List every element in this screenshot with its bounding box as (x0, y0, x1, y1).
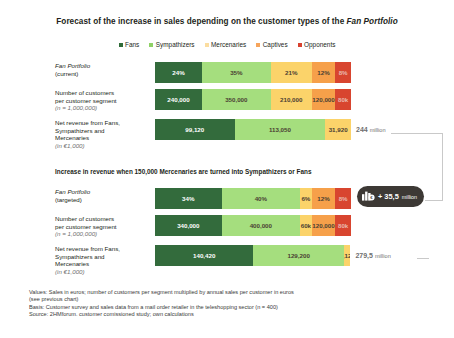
bar-segment-captives: 12% (312, 62, 336, 83)
bar-segment-fans: 140,420 (155, 245, 253, 266)
bar-segment-mercenaries: 210,000 (271, 89, 312, 110)
row-label: Fan Portfolio(targeted) (55, 188, 150, 203)
legend-swatch-icon (205, 43, 209, 47)
connector-line-horizontal-bottom (425, 200, 443, 201)
panel-current: Fan Portfolio(current)24%35%21%12%8%Numb… (0, 62, 454, 144)
bar-segment-captives: 120,000 (312, 215, 336, 236)
bar-segment-mercenaries: 21% (271, 62, 312, 83)
row-total-value: 244 (356, 126, 368, 133)
row-total: 279,5 million (355, 252, 390, 259)
legend-swatch-icon (298, 43, 302, 47)
legend-label: Fans (125, 42, 139, 48)
row-label: Number of customersper customer segment(… (55, 215, 150, 238)
bar-segment-mercenaries: 6% (300, 188, 312, 209)
footnote-line: (see previous chart) (29, 296, 429, 303)
stacked-bar: 240,000350,000210,000120,00080k (155, 89, 351, 110)
stacked-bar: 140,420129,2009,120 (155, 245, 350, 266)
page-title-emphasis: Fan Portfolio (347, 17, 398, 26)
legend-label: Captives (263, 42, 288, 48)
chart-page: Forecast of the increase in sales depend… (0, 0, 454, 338)
row-total-unit: million (370, 127, 386, 133)
bar-segment-fans: 24% (155, 62, 202, 83)
legend-item-fans: Fans (119, 42, 140, 48)
bar-segment-sympathizers: 35% (202, 62, 271, 83)
legend-label: Sympathizers (156, 42, 195, 48)
bar-segment-opponents: 80k (335, 89, 351, 110)
footnote-line: Basis: Customer survey and sales data fr… (29, 304, 429, 311)
legend-item-captives: Captives (256, 42, 287, 48)
row-total: 244 million (356, 126, 386, 133)
legend-swatch-icon (256, 43, 260, 47)
footnote-line: Source: 2HMforum. customer comissioned s… (29, 311, 429, 318)
bar-segment-opponents: 8% (335, 62, 351, 83)
bar-segment-sympathizers: 113,050 (235, 119, 326, 140)
connector-line-horizontal-top (391, 133, 443, 134)
legend-item-mercenaries: Mercenaries (205, 42, 247, 48)
badge-unit: million (402, 194, 417, 200)
bar-segment-captives: 120,000 (312, 89, 336, 110)
connector-line-vertical (442, 133, 443, 201)
stacked-bar: 340,000400,00060k120,00080k (155, 215, 351, 236)
row-total-unit: million (375, 253, 391, 259)
legend-swatch-icon (119, 43, 123, 47)
chart-row: Fan Portfolio(current)24%35%21%12%8% (0, 62, 454, 84)
footnote-line: Values: Sales in euros; number of custom… (29, 289, 429, 296)
chart-row: Number of customersper customer segment(… (0, 215, 454, 237)
row-label: Number of customersper customer segment(… (55, 89, 150, 112)
page-title-text: Forecast of the increase in sales depend… (56, 17, 346, 26)
badge-value: + 35,5 (378, 192, 399, 201)
row-total-value: 279,5 (355, 252, 373, 259)
chart-legend: FansSympathizersMercenariesCaptivesOppon… (0, 42, 454, 48)
legend-item-sympathizers: Sympathizers (149, 42, 194, 48)
legend-item-opponents: Opponents (298, 42, 336, 48)
bar-chart-euro-icon: € (362, 190, 375, 203)
bar-segment-fans: 340,000 (155, 215, 222, 236)
legend-label: Mercenaries (211, 42, 246, 48)
bar-segment-mercenaries: 9,120 (344, 245, 350, 266)
chart-row: Number of customersper customer segment(… (0, 89, 454, 111)
stacked-bar: 99,120113,05031,920 (155, 119, 351, 140)
row-label: Net revenue from Fans,Sympathizers andMe… (55, 245, 150, 275)
bar-segment-fans: 240,000 (155, 89, 202, 110)
legend-label: Opponents (304, 42, 335, 48)
page-title: Forecast of the increase in sales depend… (0, 17, 454, 26)
bar-segment-opponents: 8% (335, 188, 351, 209)
chart-row: Net revenue from Fans,Sympathizers andMe… (0, 119, 454, 141)
increase-badge: € + 35,5 million (357, 186, 424, 207)
bar-segment-fans: 34% (155, 188, 222, 209)
bar-segment-sympathizers: 350,000 (202, 89, 271, 110)
legend-swatch-icon (149, 43, 153, 47)
bar-segment-opponents: 80k (335, 215, 351, 236)
bar-segment-sympathizers: 40% (222, 188, 300, 209)
stacked-bar: 34%40%6%12%8% (155, 188, 351, 209)
bar-segment-mercenaries: 60k (300, 215, 312, 236)
bar-segment-mercenaries: 31,920 (325, 119, 351, 140)
bar-segment-sympathizers: 129,200 (253, 245, 344, 266)
bar-segment-sympathizers: 400,000 (222, 215, 300, 236)
section-note: Increase in revenue when 150,000 Mercena… (55, 168, 311, 175)
row-label: Net revenue from Fans,Sympathizers andMe… (55, 119, 150, 149)
stacked-bar: 24%35%21%12%8% (155, 62, 351, 83)
footnotes: Values: Sales in euros; number of custom… (29, 289, 429, 319)
connector-line-tick (417, 258, 429, 259)
row-label: Fan Portfolio(current) (55, 62, 150, 77)
bar-segment-captives: 12% (312, 188, 336, 209)
chart-row: Net revenue from Fans,Sympathizers andMe… (0, 245, 454, 267)
bar-segment-fans: 99,120 (155, 119, 235, 140)
